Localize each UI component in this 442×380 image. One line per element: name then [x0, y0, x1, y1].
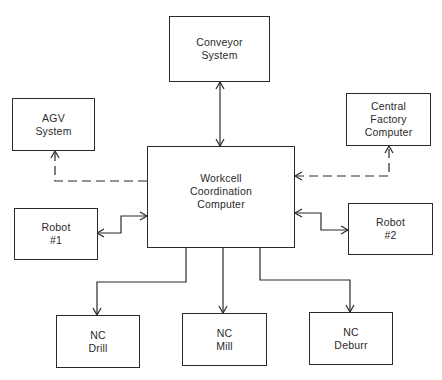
- node-label: Deburr: [334, 339, 367, 352]
- node-label: #1: [50, 234, 62, 247]
- node-label: Factory: [370, 113, 406, 126]
- conveyor-system-box: Conveyor System: [169, 16, 270, 82]
- node-label: Computer: [197, 198, 245, 211]
- node-label: Computer: [365, 126, 413, 139]
- node-label: Central: [371, 100, 406, 113]
- node-label: NC: [343, 326, 359, 339]
- edge-central-workcell: [295, 146, 389, 176]
- nc-deburr-box: NC Deburr: [309, 312, 393, 365]
- node-label: Conveyor: [196, 36, 243, 49]
- node-label: Mill: [216, 340, 233, 353]
- node-label: Robot: [41, 221, 70, 234]
- node-label: Robot: [376, 216, 405, 229]
- node-label: NC: [90, 329, 106, 342]
- node-label: Drill: [88, 342, 107, 355]
- robot-1-box: Robot #1: [14, 208, 98, 260]
- workcell-coordination-computer-box: Workcell Coordination Computer: [147, 146, 295, 248]
- node-label: AGV: [42, 112, 65, 125]
- edge-workcell-deburr: [260, 248, 350, 312]
- node-label: NC: [217, 327, 233, 340]
- central-factory-computer-box: Central Factory Computer: [346, 93, 431, 146]
- nc-drill-box: NC Drill: [56, 315, 140, 368]
- edge-workcell-robot2: [295, 213, 348, 230]
- node-label: #2: [384, 229, 396, 242]
- nc-mill-box: NC Mill: [182, 313, 267, 366]
- node-label: Workcell: [200, 172, 242, 185]
- node-label: Coordination: [190, 185, 252, 198]
- edge-workcell-drill: [97, 248, 186, 315]
- agv-system-box: AGV System: [12, 98, 95, 151]
- edge-workcell-agv: [55, 151, 147, 181]
- node-label: System: [201, 49, 237, 62]
- robot-2-box: Robot #2: [348, 203, 433, 255]
- node-label: System: [35, 125, 71, 138]
- edge-workcell-robot1: [97, 216, 147, 233]
